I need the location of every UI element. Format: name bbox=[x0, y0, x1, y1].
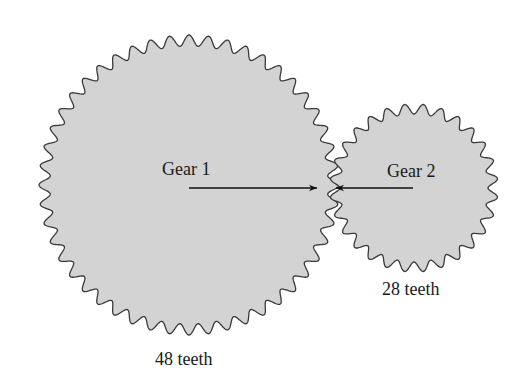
gear-diagram: Gear 1 Gear 2 48 teeth 28 teeth bbox=[0, 0, 523, 384]
gear-1-teeth-label: 48 teeth bbox=[155, 349, 212, 369]
gear-2-label: Gear 2 bbox=[387, 161, 435, 181]
gear-1-label: Gear 1 bbox=[162, 159, 210, 179]
gear-1-shape bbox=[39, 35, 339, 335]
gear-2-teeth-label: 28 teeth bbox=[382, 279, 439, 299]
gear-diagram-svg: Gear 1 Gear 2 48 teeth 28 teeth bbox=[0, 0, 523, 384]
